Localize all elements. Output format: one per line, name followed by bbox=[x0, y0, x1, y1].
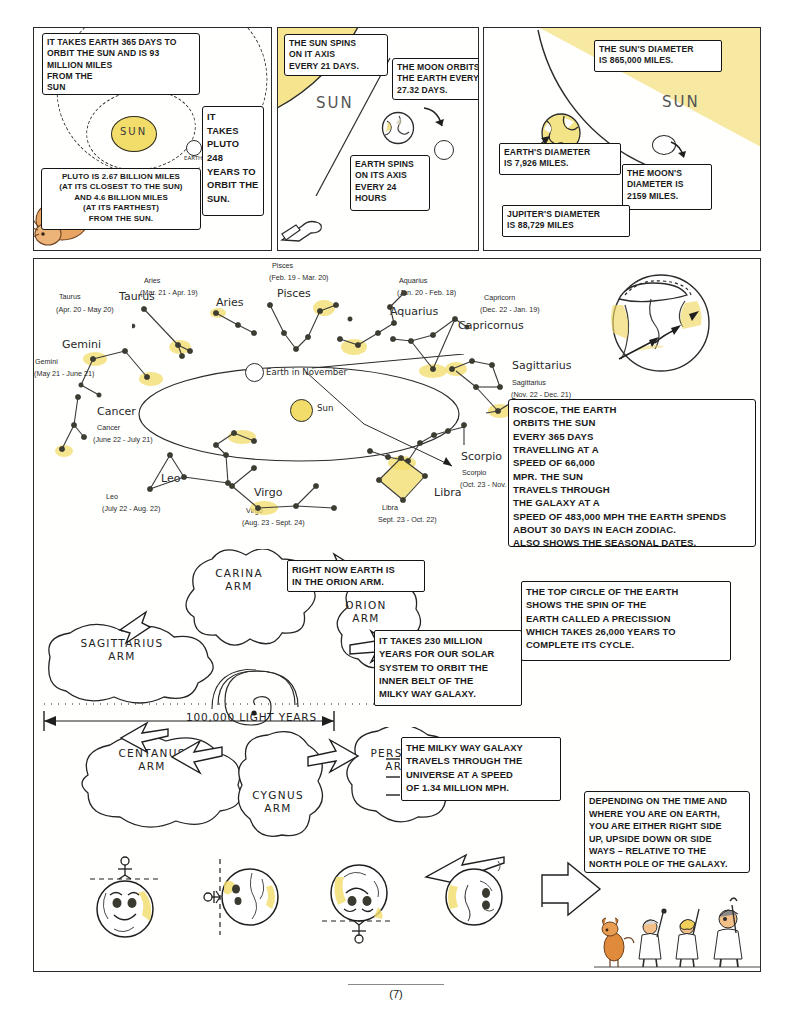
zodiac-dates-pisces: (Feb. 19 - Mar. 20) bbox=[269, 273, 329, 282]
panel-sun-spin-moon-orbit: SUN THE SUN SPINS ON IT AXIS EVERY 21 DA… bbox=[277, 27, 479, 251]
bubble-pluto-orbit: IT TAKES PLUTO 248 YEARS TO ORBIT THE SU… bbox=[202, 106, 264, 216]
constellation-libra bbox=[371, 454, 433, 510]
zodiac-small-leo: Leo bbox=[106, 492, 118, 501]
bubble-earth-diameter: EARTH'S DIAMETER IS 7,926 MILES. bbox=[499, 143, 621, 175]
bubble-galaxy-speed: THE MILKY WAY GALAXY TRAVELS THROUGH THE… bbox=[401, 737, 561, 801]
earth-face-upside-down bbox=[316, 851, 402, 947]
zodiac-small-aquarius: Aquarius bbox=[399, 276, 427, 285]
bubble-earth-spin: EARTH SPINS ON ITS AXIS EVERY 24 HOURS bbox=[350, 155, 430, 211]
panel-zodiac-and-galaxy: Earth in November Sun Taurus Taurus (Apr… bbox=[33, 258, 761, 972]
footer-rule bbox=[348, 984, 444, 985]
bubble-moon-orbit: THE MOON ORBITS THE EARTH EVERY 27.32 DA… bbox=[392, 58, 479, 100]
sun-label: SUN bbox=[662, 93, 700, 111]
bubble-earth-orbit: IT TAKES EARTH 365 DAYS TO ORBIT THE SUN… bbox=[42, 33, 200, 95]
bubble-solar-orbit: IT TAKES 230 MILLION YEARS FOR OUR SOLAR… bbox=[374, 630, 522, 706]
orion-arm-label: ORION ARM bbox=[326, 599, 406, 625]
sun-label: Sun bbox=[317, 403, 333, 413]
bubble-sun-diameter: THE SUN'S DIAMETER IS 865,000 MILES. bbox=[594, 40, 722, 72]
comic-page: SUN EARTH IT TAKES EARTH 365 DAYS TO ORB… bbox=[0, 0, 792, 1026]
zodiac-small-pisces: Pisces bbox=[272, 261, 293, 270]
bubble-moon-diameter: THE MOON'S DIAMETER IS 2159 MILES. bbox=[622, 164, 712, 210]
galaxy-core-spiral bbox=[210, 669, 300, 739]
earth-face-sideways-right bbox=[434, 855, 520, 941]
sun-label: SUN bbox=[120, 126, 147, 137]
zodiac-small-capricorn: Capricorn bbox=[484, 293, 515, 302]
zodiac-small-gemini: Gemini bbox=[35, 357, 58, 366]
zodiac-big-libra: Libra bbox=[434, 486, 461, 499]
bubble-roscoe-earth-orbit: ROSCOE, THE EARTH ORBITS THE SUN EVERY 3… bbox=[508, 399, 756, 547]
cygnus-arm-label: CYGNUS ARM bbox=[230, 789, 326, 815]
carina-arm-label: CARINA ARM bbox=[184, 567, 294, 593]
page-number: (7) bbox=[0, 988, 792, 1000]
earth-disc bbox=[186, 140, 202, 156]
scale-label-light-years: 100,000 LIGHT YEARS bbox=[186, 711, 317, 723]
earth-face-right-side-up bbox=[84, 849, 166, 939]
zodiac-dates-leo: (July 22 - Aug. 22) bbox=[102, 504, 160, 513]
panel-sun-earth-pluto: SUN EARTH IT TAKES EARTH 365 DAYS TO ORB… bbox=[33, 27, 272, 251]
zodiac-small-taurus: Taurus bbox=[59, 292, 81, 301]
zodiac-dates-aries: (Mar. 21 - Apr. 19) bbox=[140, 288, 198, 297]
bubble-precession: THE TOP CIRCLE OF THE EARTH SHOWS THE SP… bbox=[521, 581, 731, 661]
zodiac-dates-capricorn: (Dec. 22 - Jan. 19) bbox=[480, 305, 540, 314]
constellation-gemini bbox=[69, 347, 173, 405]
sagittarius-arm-label: SAGITTARIUS ARM bbox=[52, 637, 192, 663]
zodiac-big-cancer: Cancer bbox=[97, 405, 136, 418]
zodiac-dates-taurus: (Apr. 20 - May 20) bbox=[56, 305, 114, 314]
zodiac-small-aries: Aries bbox=[144, 276, 160, 285]
earth-precession-globe bbox=[599, 265, 729, 377]
zodiac-dates-cancer: (June 22 - July 21) bbox=[93, 435, 153, 444]
bubble-orientation: DEPENDING ON THE TIME AND WHERE YOU ARE … bbox=[584, 791, 750, 873]
panel-diameters: SUN THE SUN'S DIAMETER IS 865,000 MILES.… bbox=[483, 27, 761, 251]
moon-pointer-arrow bbox=[669, 140, 691, 164]
moon-orbit-arrow bbox=[418, 106, 458, 148]
scientists-group bbox=[590, 889, 761, 972]
bubble-orion-arm: RIGHT NOW EARTH IS IN THE ORION ARM. bbox=[287, 560, 425, 592]
sun-marker bbox=[290, 399, 313, 422]
earth-marker bbox=[245, 363, 264, 382]
earth-face-sideways-left bbox=[194, 855, 286, 941]
bubble-jupiter-diameter: JUPITER'S DIAMETER IS 88,729 MILES bbox=[502, 205, 630, 237]
centanus-arm-label: CENTANUS ARM bbox=[92, 747, 212, 773]
bubble-sun-spin: THE SUN SPINS ON IT AXIS EVERY 21 DAYS. bbox=[284, 34, 388, 76]
earth-label: EARTH bbox=[184, 155, 202, 161]
zodiac-small-cancer: Cancer bbox=[97, 423, 120, 432]
bubble-pluto-distance: PLUTO IS 2.67 BILLION MILES (AT ITS CLOS… bbox=[41, 168, 201, 230]
zodiac-dates-libra: Sept. 23 - Oct. 22) bbox=[378, 515, 437, 524]
